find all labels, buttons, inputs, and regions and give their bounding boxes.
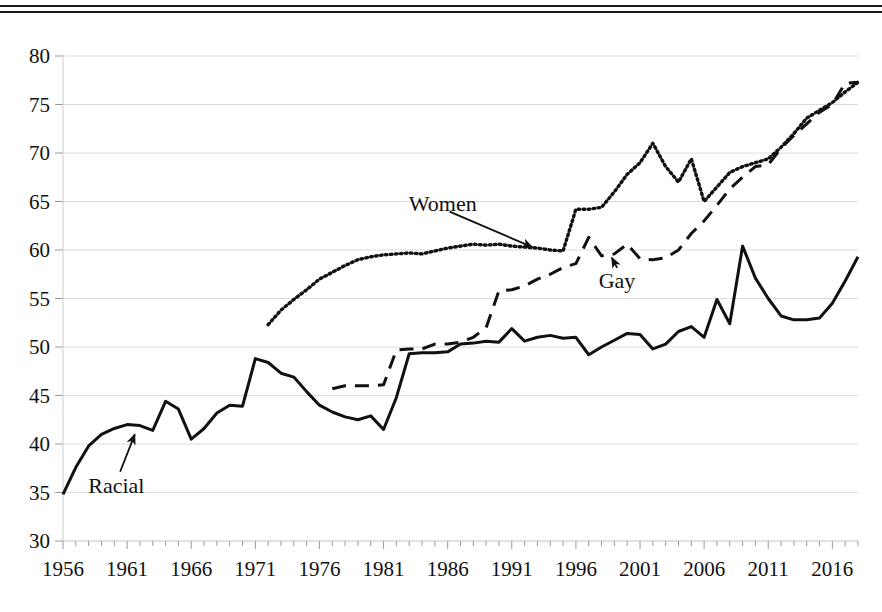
series-line-racial xyxy=(63,246,858,494)
y-axis-label-40: 40 xyxy=(8,434,50,455)
series-lines xyxy=(63,82,858,494)
x-axis-label-1956: 1956 xyxy=(28,559,98,580)
annotation-label-women: Women xyxy=(409,193,477,215)
y-axis-label-50: 50 xyxy=(8,337,50,358)
x-axis-label-1971: 1971 xyxy=(220,559,290,580)
series-line-women xyxy=(268,82,858,325)
annotation-arrow-gay xyxy=(612,258,617,268)
line-chart-plot xyxy=(0,0,882,612)
annotation-label-racial: Racial xyxy=(88,475,144,497)
y-axis-label-65: 65 xyxy=(8,192,50,213)
series-line-gay xyxy=(332,82,858,389)
x-axis-label-1976: 1976 xyxy=(284,559,354,580)
x-axis-label-1986: 1986 xyxy=(413,559,483,580)
y-axis-label-45: 45 xyxy=(8,386,50,407)
annotation-arrow-women xyxy=(450,212,533,247)
x-axis-label-2006: 2006 xyxy=(669,559,739,580)
axis-ticks xyxy=(55,56,858,549)
annotation-arrow-racial xyxy=(120,434,135,471)
x-axis-label-1981: 1981 xyxy=(349,559,419,580)
x-axis-label-1996: 1996 xyxy=(541,559,611,580)
y-axis-label-55: 55 xyxy=(8,289,50,310)
x-axis-label-1961: 1961 xyxy=(92,559,162,580)
y-axis-label-35: 35 xyxy=(8,483,50,504)
y-axis-label-70: 70 xyxy=(8,143,50,164)
annotation-label-gay: Gay xyxy=(599,270,636,292)
x-axis-label-1966: 1966 xyxy=(156,559,226,580)
y-axis-label-30: 30 xyxy=(8,531,50,552)
x-axis-label-2011: 2011 xyxy=(733,559,803,580)
y-axis-label-75: 75 xyxy=(8,95,50,116)
y-axis-label-60: 60 xyxy=(8,240,50,261)
chart-figure: 3035404550556065707580 19561961196619711… xyxy=(0,0,882,612)
x-axis-label-2001: 2001 xyxy=(605,559,675,580)
x-axis-label-1991: 1991 xyxy=(477,559,547,580)
x-axis-label-2016: 2016 xyxy=(797,559,867,580)
annotation-arrows xyxy=(120,212,617,472)
y-axis-label-80: 80 xyxy=(8,46,50,67)
gridlines xyxy=(63,56,858,541)
